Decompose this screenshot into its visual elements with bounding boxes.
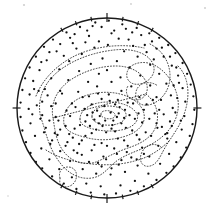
data-point <box>38 69 40 71</box>
data-point <box>98 73 100 75</box>
data-point <box>59 43 61 45</box>
data-point <box>78 143 80 145</box>
data-point <box>72 137 74 139</box>
data-point <box>40 147 42 149</box>
data-point <box>132 102 134 104</box>
data-point <box>145 103 147 105</box>
data-point <box>98 40 100 42</box>
data-point <box>132 45 134 47</box>
data-point <box>136 27 138 29</box>
data-point <box>86 114 88 116</box>
data-point <box>63 55 65 57</box>
data-point <box>58 168 60 170</box>
data-point <box>141 121 143 123</box>
data-point <box>117 137 119 139</box>
data-point <box>166 132 168 134</box>
data-point <box>64 125 66 127</box>
data-point <box>66 141 68 143</box>
data-point <box>91 25 93 27</box>
data-point <box>108 20 110 22</box>
tick-minor-9 <box>122 195 123 199</box>
data-point <box>120 159 122 161</box>
data-point <box>69 37 71 39</box>
data-point <box>19 101 21 103</box>
pole-figure-plot: Stereographic pole figure with point den… <box>0 0 213 214</box>
data-point <box>115 192 117 194</box>
data-point <box>41 114 43 116</box>
data-point <box>95 128 97 130</box>
data-point <box>109 100 111 102</box>
data-point <box>116 153 118 155</box>
data-point <box>35 56 37 58</box>
data-point <box>95 173 97 175</box>
data-point <box>139 74 141 76</box>
data-point <box>153 58 155 60</box>
data-point <box>116 116 118 118</box>
data-point <box>99 115 101 117</box>
data-point <box>46 94 48 96</box>
data-point <box>121 23 123 25</box>
data-point <box>192 95 194 97</box>
data-point <box>183 115 185 117</box>
data-point <box>129 190 131 192</box>
data-point <box>88 35 90 37</box>
data-point <box>181 62 183 64</box>
data-point <box>98 122 100 124</box>
data-point <box>138 138 140 140</box>
data-point <box>149 84 151 86</box>
data-point <box>79 26 81 28</box>
data-point <box>103 105 105 107</box>
data-point <box>81 53 83 55</box>
data-point <box>34 135 36 137</box>
data-point <box>109 173 111 175</box>
data-point <box>102 155 104 157</box>
data-point <box>181 128 183 130</box>
data-point <box>186 73 188 75</box>
data-point <box>110 81 112 83</box>
data-point <box>136 164 138 166</box>
data-point <box>37 90 39 92</box>
data-point <box>144 44 146 46</box>
data-point <box>39 118 41 120</box>
data-point <box>57 119 59 121</box>
data-point <box>44 88 46 90</box>
data-point <box>143 109 145 111</box>
data-point <box>104 119 106 121</box>
data-point <box>157 145 159 147</box>
data-point <box>140 34 142 36</box>
data-point <box>169 56 171 58</box>
data-point <box>56 134 58 136</box>
data-point <box>32 80 34 82</box>
data-point <box>165 172 167 174</box>
data-point <box>123 139 125 141</box>
data-point <box>90 63 92 65</box>
data-point <box>88 161 90 163</box>
data-point <box>160 99 162 101</box>
data-point <box>167 44 169 46</box>
data-point <box>48 158 50 160</box>
data-point <box>141 146 143 148</box>
pole-figure-container: Stereographic pole figure with point den… <box>0 0 213 214</box>
data-point <box>143 153 145 155</box>
data-point <box>116 60 118 62</box>
data-point <box>166 137 168 139</box>
data-point <box>189 135 191 137</box>
data-point <box>29 122 31 124</box>
data-point <box>74 106 76 108</box>
data-point <box>97 92 99 94</box>
data-point <box>130 85 132 87</box>
data-point <box>161 47 163 49</box>
data-point <box>78 70 80 72</box>
data-point <box>158 109 160 111</box>
data-point <box>65 110 67 112</box>
data-point <box>69 160 71 162</box>
data-point <box>41 101 43 103</box>
data-point <box>112 119 114 121</box>
data-point <box>172 107 174 109</box>
data-point <box>67 79 69 81</box>
data-point <box>161 126 163 128</box>
data-point <box>97 162 99 164</box>
data-point <box>51 139 53 141</box>
data-point <box>119 76 121 78</box>
data-point <box>84 135 86 137</box>
